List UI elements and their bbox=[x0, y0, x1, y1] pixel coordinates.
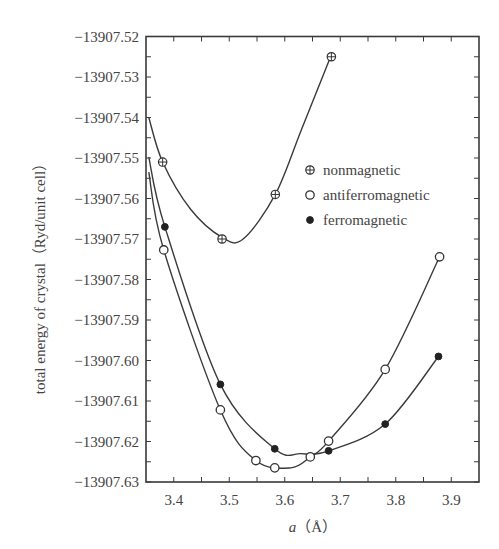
marker-ferromagnetic bbox=[435, 353, 442, 360]
y-tick-label: −13907.60 bbox=[74, 353, 139, 369]
chart-figure: −13907.52−13907.53−13907.54−13907.55−139… bbox=[0, 0, 499, 549]
marker-ferromagnetic bbox=[161, 223, 168, 230]
x-axis: 3.43.53.63.73.83.9 bbox=[164, 37, 460, 509]
x-tick-label: 3.6 bbox=[275, 492, 294, 508]
marker-ferromagnetic bbox=[217, 381, 224, 388]
x-axis-title-unit: （Å） bbox=[296, 519, 337, 535]
x-tick-label: 3.8 bbox=[386, 492, 405, 508]
marker-antiferromagnetic bbox=[435, 253, 443, 261]
marker-antiferromagnetic bbox=[216, 406, 224, 414]
marker-antiferromagnetic bbox=[381, 365, 389, 373]
x-tick-label: 3.9 bbox=[442, 492, 461, 508]
series-curves bbox=[149, 55, 440, 469]
marker-ferromagnetic bbox=[382, 421, 389, 428]
curve-nonmagnetic bbox=[149, 55, 332, 243]
y-tick-label: −13907.56 bbox=[74, 191, 139, 207]
x-tick-label: 3.5 bbox=[220, 492, 239, 508]
legend-marker-antiferromagnetic bbox=[306, 191, 314, 199]
marker-ferromagnetic bbox=[325, 447, 332, 454]
legend-label-ferromagnetic: ferromagnetic bbox=[323, 212, 407, 228]
y-tick-label: −13907.63 bbox=[74, 474, 139, 490]
x-axis-title: a（Å） bbox=[289, 519, 337, 535]
marker-antiferromagnetic bbox=[271, 464, 279, 472]
x-axis-title-variable: a bbox=[289, 519, 297, 535]
x-tick-label: 3.7 bbox=[331, 492, 350, 508]
x-tick-label: 3.4 bbox=[164, 492, 183, 508]
marker-antiferromagnetic bbox=[160, 246, 168, 254]
y-tick-label: −13907.54 bbox=[74, 110, 139, 126]
y-axis: −13907.52−13907.53−13907.54−13907.55−139… bbox=[74, 29, 479, 491]
y-tick-label: −13907.62 bbox=[74, 434, 139, 450]
marker-antiferromagnetic bbox=[306, 453, 314, 461]
legend-label-nonmagnetic: nonmagnetic bbox=[323, 162, 401, 178]
series-markers bbox=[158, 53, 443, 472]
y-tick-label: −13907.58 bbox=[74, 272, 139, 288]
y-tick-label: −13907.52 bbox=[74, 29, 139, 45]
y-tick-label: −13907.57 bbox=[74, 231, 139, 247]
legend-marker-ferromagnetic bbox=[307, 217, 314, 224]
y-tick-label: −13907.55 bbox=[74, 150, 139, 166]
marker-antiferromagnetic bbox=[252, 456, 260, 464]
marker-ferromagnetic bbox=[271, 445, 278, 452]
y-axis-title: total energy of crystal（Ryd/unit cell） bbox=[32, 156, 48, 394]
y-tick-label: −13907.59 bbox=[74, 312, 139, 328]
legend-label-antiferromagnetic: antiferromagnetic bbox=[323, 187, 430, 203]
marker-antiferromagnetic bbox=[324, 437, 332, 445]
y-tick-label: −13907.53 bbox=[74, 69, 139, 85]
legend: nonmagneticantiferromagneticferromagneti… bbox=[306, 162, 430, 228]
y-tick-label: −13907.61 bbox=[74, 393, 139, 409]
